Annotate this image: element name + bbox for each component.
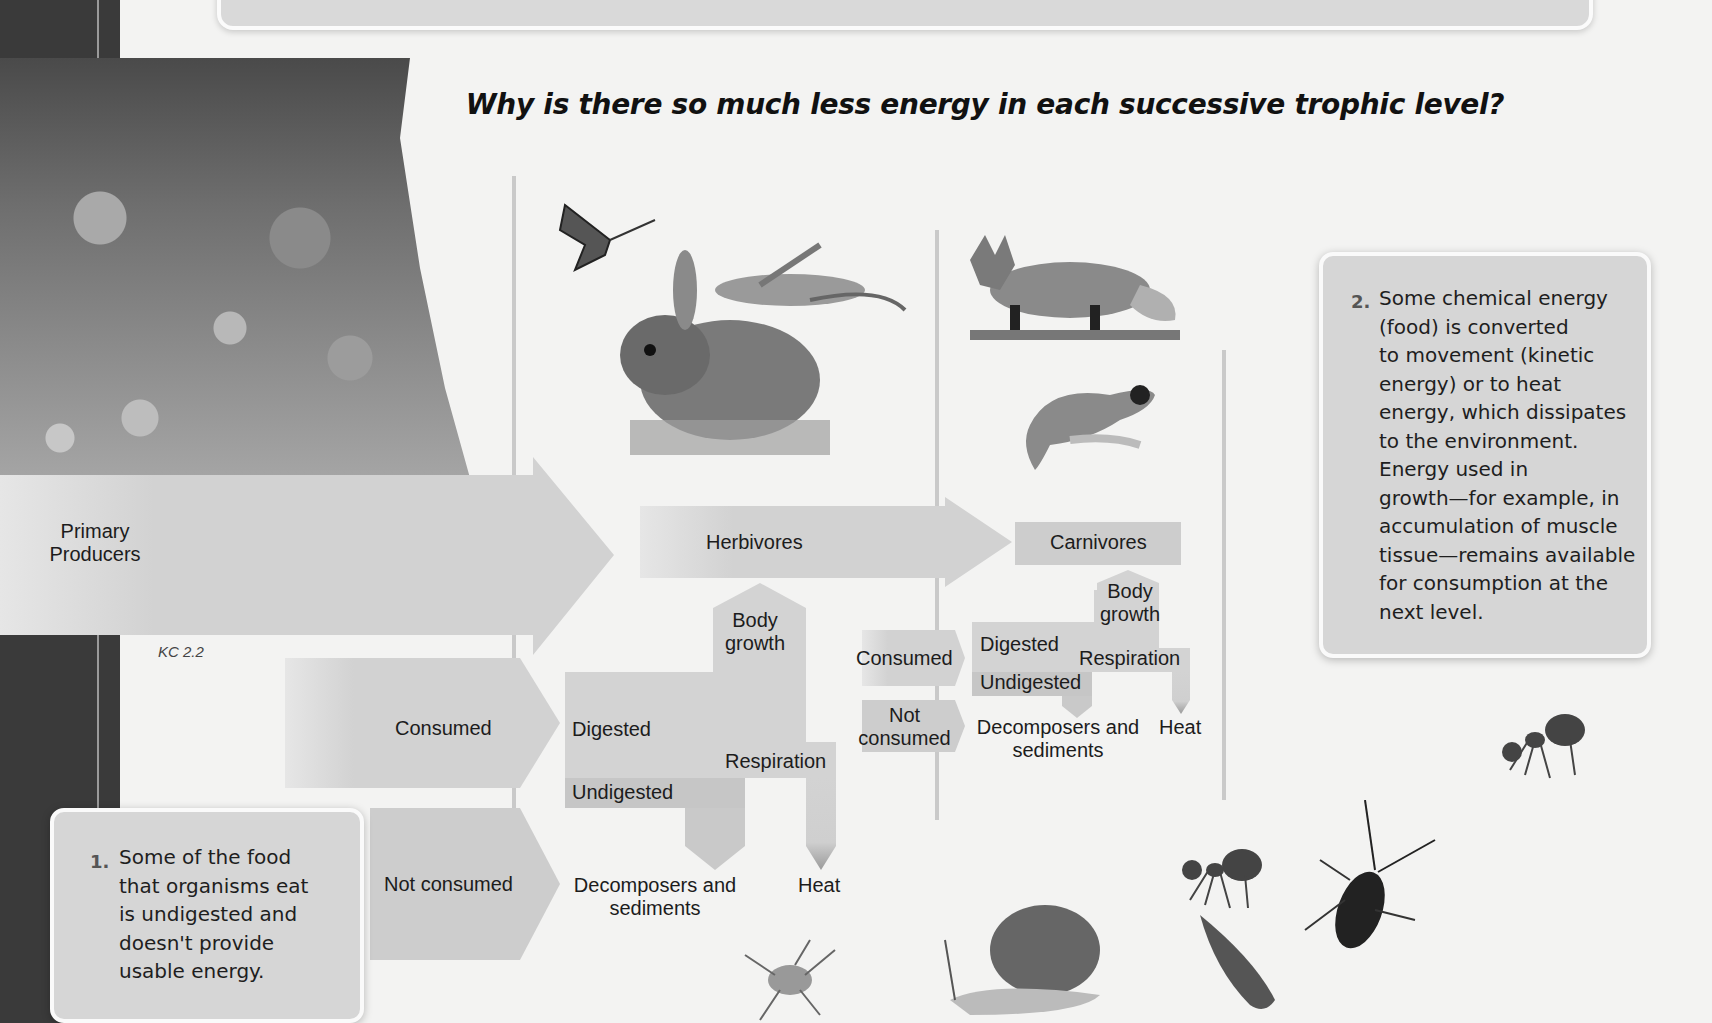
snail-icon [930, 905, 1110, 1020]
herbivores-arrow [640, 497, 1012, 587]
label-carnivore-undigested: Undigested [980, 671, 1081, 694]
label-carnivore-heat: Heat [1159, 716, 1201, 739]
callout-2-number: 2. [1351, 288, 1370, 317]
label-herbivore-decomposers: Decomposers and sediments [565, 874, 745, 920]
label-herbivore-undigested: Undigested [572, 781, 673, 804]
label-carnivore-decomposers: Decomposers and sediments [968, 716, 1148, 762]
red-fox-icon [960, 235, 1190, 345]
label-herbivore-heat: Heat [798, 874, 840, 897]
label-herbivore-respiration: Respiration [725, 750, 826, 773]
label-primary-producers: Primary Producers [40, 520, 150, 566]
callout-1-text: Some of the food that organisms eat is u… [119, 843, 308, 986]
black-footed-ferret-icon [1010, 365, 1160, 475]
label-carnivore-body-growth: Body growth [1090, 580, 1170, 626]
callout-1: 1. Some of the food that organisms eat i… [50, 808, 364, 1023]
label-herbivore-digested: Digested [572, 718, 651, 741]
callout-2: 2. Some chemical energy (food) is conver… [1319, 252, 1651, 658]
beetle-icon [1300, 800, 1440, 960]
label-carnivore-respiration: Respiration [1079, 647, 1180, 670]
ant-icon [1170, 830, 1270, 910]
label-producer-not-consumed: Not consumed [384, 873, 513, 896]
figure-reference: KC 2.2 [158, 643, 204, 660]
label-carnivore-digested: Digested [980, 633, 1059, 656]
label-herbivores: Herbivores [706, 531, 803, 554]
leafhopper-icon [1195, 910, 1285, 1015]
callout-2-text: Some chemical energy (food) is converted… [1379, 284, 1635, 626]
ant-icon [1490, 700, 1590, 780]
label-producer-consumed: Consumed [395, 717, 492, 740]
callout-1-number: 1. [90, 848, 109, 877]
label-herbivore-body-growth: Body growth [715, 609, 795, 655]
label-herbivore-consumed: Consumed [856, 647, 953, 670]
springtail-icon [735, 935, 845, 1023]
label-carnivores: Carnivores [1050, 531, 1147, 554]
rabbit-icon [610, 250, 830, 460]
label-herbivore-not-consumed: Not consumed [852, 704, 957, 750]
